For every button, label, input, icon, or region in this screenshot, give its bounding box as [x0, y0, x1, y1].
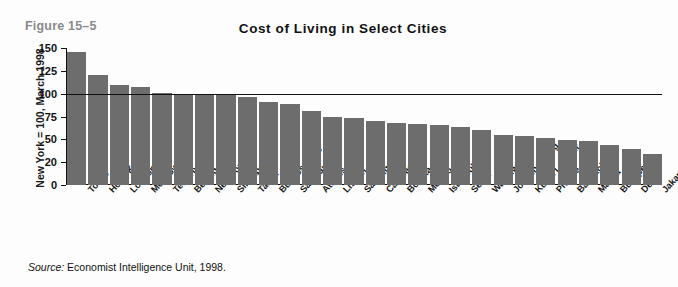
bar-column	[536, 48, 555, 185]
bar	[323, 117, 342, 185]
bar	[558, 140, 577, 185]
bar-column	[323, 48, 342, 185]
bar-column	[472, 48, 491, 185]
y-axis-tick	[61, 117, 66, 118]
figure-number-label: Figure 15–5	[25, 19, 97, 33]
x-axis-label: Jakarta	[660, 188, 667, 195]
bar	[515, 136, 534, 185]
y-axis-tick-label: 150	[23, 42, 57, 54]
bar-column	[494, 48, 513, 185]
x-axis-label: Istanbul	[447, 188, 454, 195]
bar-column	[88, 48, 107, 185]
bar-series	[67, 48, 662, 185]
x-axis-label: Beijing	[192, 188, 199, 195]
bar	[472, 130, 491, 185]
figure-container: Figure 15–5 Cost of Living in Select Cit…	[0, 0, 678, 287]
bar	[67, 52, 86, 185]
bar-column	[622, 48, 641, 185]
x-axis-label: Bangkok	[575, 188, 582, 195]
bar-column	[280, 48, 299, 185]
x-axis-label: Budapest	[618, 188, 625, 195]
bar-column	[643, 48, 662, 185]
x-axis-label: Hong Kong	[107, 188, 114, 195]
x-axis-label: Sao Paulo	[298, 188, 305, 195]
bar-column	[67, 48, 86, 185]
x-axis-label: Bogota	[405, 188, 412, 195]
bar-column	[131, 48, 150, 185]
bar-column	[558, 48, 577, 185]
bar	[238, 97, 257, 185]
bar	[643, 154, 662, 185]
bar-column	[238, 48, 257, 185]
bar-column	[302, 48, 321, 185]
bar	[579, 141, 598, 185]
y-axis-tick-label: 100	[23, 88, 57, 100]
bar-column	[152, 48, 171, 185]
bar	[131, 87, 150, 185]
x-axis-label: Johannesburg	[511, 188, 518, 195]
bar	[259, 102, 278, 185]
bar-column	[579, 48, 598, 185]
bar	[152, 93, 171, 185]
bar	[387, 123, 406, 185]
x-axis-label: Kuala Lumpur	[533, 188, 540, 195]
bar	[536, 138, 555, 185]
y-axis-tick	[61, 94, 66, 95]
y-axis-tick	[61, 162, 66, 163]
y-axis-tick	[61, 71, 66, 72]
bar	[110, 85, 129, 185]
bar	[216, 94, 235, 185]
x-axis-label: Prague	[554, 188, 561, 195]
x-axis-label: Delhi	[639, 188, 646, 195]
x-axis-label: Caracas	[384, 188, 391, 195]
bar	[174, 94, 193, 185]
chart-title: Cost of Living in Select Cities	[143, 21, 543, 36]
bar	[302, 111, 321, 185]
x-axis-label: Athens	[320, 188, 327, 195]
bar-column	[216, 48, 235, 185]
bar-column	[110, 48, 129, 185]
x-axis-label: Manila	[596, 188, 603, 195]
x-axis-label: Taipei	[256, 188, 263, 195]
x-axis-label: Singapore	[235, 188, 242, 195]
bar	[88, 75, 107, 186]
x-axis-label: Tel Aviv	[171, 188, 178, 195]
plot-area: 1501251007550200	[66, 48, 662, 185]
source-prefix: Source:	[28, 261, 64, 273]
source-text: Economist Intelligence Unit, 1998.	[64, 261, 226, 273]
y-axis-tick-label: 125	[23, 65, 57, 77]
y-axis-tick-label: 75	[23, 111, 57, 123]
y-axis-tick	[61, 48, 66, 49]
bar	[344, 118, 363, 185]
bar	[451, 127, 470, 185]
bar-column	[430, 48, 449, 185]
bar-column	[174, 48, 193, 185]
y-axis-tick-label: 20	[23, 156, 57, 168]
bar-column	[600, 48, 619, 185]
x-axis-label: New York	[213, 188, 220, 195]
bar	[600, 145, 619, 185]
bar	[408, 124, 427, 185]
bar	[195, 94, 214, 185]
bar	[280, 104, 299, 185]
bar-column	[259, 48, 278, 185]
y-axis-tick-label: 50	[23, 133, 57, 145]
bar	[430, 125, 449, 185]
x-axis-label: Mexico City	[426, 188, 433, 195]
x-axis-label: Tokyo	[86, 188, 93, 195]
y-axis-tick-label: 0	[23, 179, 57, 191]
y-axis-tick	[61, 139, 66, 140]
x-axis-label: Seoul	[469, 188, 476, 195]
bar	[494, 135, 513, 185]
x-axis-label: Lisbon	[341, 188, 348, 195]
y-axis-tick	[61, 185, 66, 186]
x-axis-label: Buenos Aires	[277, 188, 284, 195]
bar	[622, 149, 641, 185]
bar-column	[408, 48, 427, 185]
bar-column	[451, 48, 470, 185]
x-axis-label: Santiago	[362, 188, 369, 195]
x-axis-labels: TokyoHong KongLondonMoscowTel AvivBeijin…	[66, 188, 662, 254]
source-note: Source: Economist Intelligence Unit, 199…	[28, 261, 226, 273]
x-axis-label: Moscow	[149, 188, 156, 195]
bar-column	[195, 48, 214, 185]
